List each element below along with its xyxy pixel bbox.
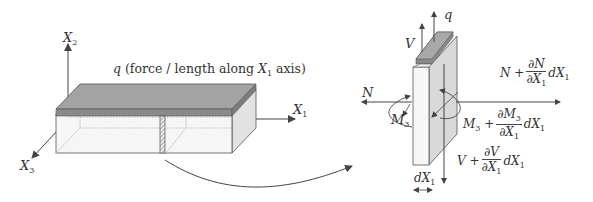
beam-element-slice xyxy=(160,116,165,153)
x1-axis-label: X1 xyxy=(293,103,307,119)
beam-front-face xyxy=(56,114,232,153)
dx1-label: dX1 xyxy=(414,172,435,187)
element-front-face xyxy=(413,67,429,165)
distributed-load-plate xyxy=(56,84,256,109)
zoom-in-arrow xyxy=(165,160,352,187)
n-label: N xyxy=(362,86,373,99)
v-plus-dv-label: V +∂V∂X1dX1 xyxy=(457,146,525,176)
x2-axis-label: X2 xyxy=(63,31,77,47)
x3-axis-label: X3 xyxy=(20,159,34,175)
v-label: V xyxy=(405,37,414,50)
m3-plus-dm-label: M3 +∂M3∂X1dX1 xyxy=(463,108,545,141)
distributed-load-label: q (force / length along X1 axis) xyxy=(113,63,306,78)
q-label: q xyxy=(444,8,452,21)
x3-axis xyxy=(32,130,58,158)
n-plus-dn-label: N +∂N∂X1dX1 xyxy=(500,58,570,88)
m3-label: M3 xyxy=(391,113,409,129)
